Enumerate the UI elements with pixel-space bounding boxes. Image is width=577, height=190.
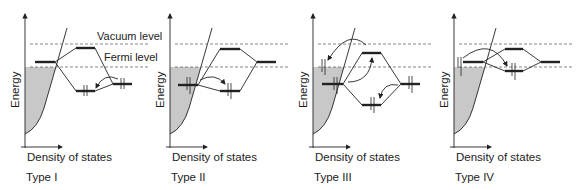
panel-type-1: Vacuum level Fermi level Energy Density … bbox=[9, 14, 162, 183]
spin-pair-icon bbox=[84, 78, 124, 96]
panel-type-3: Energy Density of states Type III bbox=[297, 14, 433, 183]
energy-level-diagram-figure: Vacuum level Fermi level Energy Density … bbox=[0, 0, 577, 190]
electron-transfer-arrow bbox=[200, 77, 225, 84]
energy-axis-label: Energy bbox=[438, 71, 450, 108]
panel-label: Type III bbox=[314, 171, 352, 183]
dos-axis-label: Density of states bbox=[27, 151, 112, 163]
panel-label: Type II bbox=[171, 171, 206, 183]
energy-axis-label: Energy bbox=[154, 71, 166, 108]
vacuum-level-label: Vacuum level bbox=[97, 30, 162, 42]
panel-label: Type IV bbox=[455, 171, 494, 183]
panel-type-4: Energy Density of states Type IV bbox=[438, 14, 574, 183]
dos-filled-region bbox=[25, 67, 56, 134]
energy-axis-label: Energy bbox=[9, 71, 21, 108]
dos-axis-label: Density of states bbox=[315, 151, 400, 163]
panel-label: Type I bbox=[26, 171, 57, 183]
dos-axis-label: Density of states bbox=[456, 151, 541, 163]
dos-axis-label: Density of states bbox=[172, 151, 257, 163]
energy-axis-label: Energy bbox=[297, 71, 309, 108]
fermi-level-label: Fermi level bbox=[104, 51, 158, 63]
panel-type-2: Energy Density of states Type II bbox=[154, 14, 290, 183]
